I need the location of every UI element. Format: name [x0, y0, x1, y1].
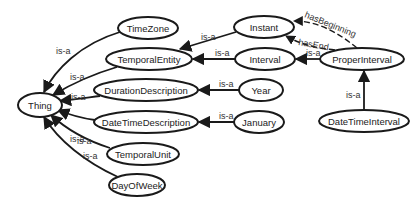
- node-label-interval: Interval: [249, 54, 280, 65]
- node-label-durationdescription: DurationDescription: [104, 85, 187, 96]
- node-label-instant: Instant: [250, 22, 279, 33]
- edge-label-durationdescription-thing: is-a: [71, 92, 86, 102]
- node-label-dayofweek: DayOfWeek: [111, 180, 162, 191]
- node-temporalunit[interactable]: TemporalUnit: [107, 143, 179, 165]
- node-interval[interactable]: Interval: [235, 48, 295, 70]
- node-properinterval[interactable]: ProperInterval: [320, 48, 404, 70]
- edge-label-year-durationdescription: is-a: [219, 79, 234, 89]
- node-temporalentity[interactable]: TemporalEntity: [106, 48, 192, 70]
- ontology-diagram: is-a is-a is-a is-a is-a is-a is-a is-a …: [0, 0, 420, 209]
- node-datetimeinterval[interactable]: DateTimeInterval: [319, 110, 409, 132]
- node-instant[interactable]: Instant: [234, 16, 294, 38]
- node-label-temporalentity: TemporalEntity: [118, 54, 181, 65]
- node-label-temporalunit: TemporalUnit: [115, 149, 171, 160]
- edge-label-hasbeginning: hasBeginning: [303, 10, 357, 40]
- edge-label-temporalentity-thing: is-a: [70, 72, 85, 82]
- node-timezone[interactable]: TimeZone: [118, 17, 178, 39]
- node-dayofweek[interactable]: DayOfWeek: [109, 174, 165, 196]
- node-label-timezone: TimeZone: [127, 23, 169, 34]
- edge-label-timezone-thing: is-a: [56, 46, 71, 56]
- node-january[interactable]: January: [234, 111, 284, 133]
- node-datetimedescription[interactable]: DateTimeDescription: [94, 111, 198, 133]
- node-label-datetimedescription: DateTimeDescription: [102, 117, 190, 128]
- edge-label-interval-temporalentity: is-a: [215, 48, 230, 58]
- edge-label-temporalunit-thing: is-a: [77, 136, 92, 146]
- nodes: Thing TimeZone TemporalEntity DurationDe…: [18, 16, 409, 196]
- edge-label-datetimeinterval-properinterval: is-a: [346, 90, 361, 100]
- node-year[interactable]: Year: [239, 79, 283, 101]
- node-label-thing: Thing: [28, 100, 52, 111]
- node-label-datetimeinterval: DateTimeInterval: [328, 116, 400, 127]
- node-label-properinterval: ProperInterval: [332, 54, 392, 65]
- node-thing[interactable]: Thing: [18, 93, 62, 117]
- node-durationdescription[interactable]: DurationDescription: [94, 79, 198, 101]
- edge-label-january-datetimedescription: is-a: [219, 111, 234, 121]
- edge-label-instant-temporalentity: is-a: [201, 32, 216, 42]
- edge-label-dayofweek-thing: is-a: [83, 151, 98, 161]
- edge-datetimedescription-thing: [58, 110, 95, 120]
- node-label-january: January: [242, 117, 276, 128]
- node-label-year: Year: [251, 85, 270, 96]
